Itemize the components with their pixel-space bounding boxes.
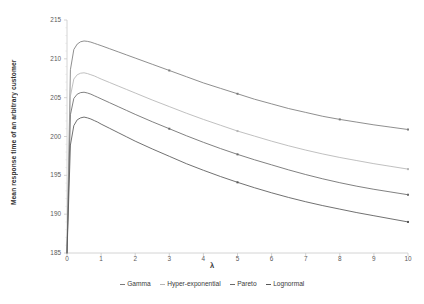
series-marker: [237, 181, 239, 183]
series-line-lognormal: [67, 117, 408, 253]
series-marker: [237, 93, 239, 95]
series-marker: [407, 168, 409, 170]
x-axis-tick-label: 3: [159, 255, 179, 262]
legend-item-lognormal[interactable]: Lognormal: [266, 281, 305, 288]
series-line-pareto: [67, 92, 408, 253]
x-axis-tick-label: 8: [330, 255, 350, 262]
legend-label: Lognormal: [273, 281, 304, 288]
chart-legend: GammaHyper-exponentialParetoLognormal: [0, 281, 424, 288]
series-marker: [407, 129, 409, 131]
series-marker: [168, 69, 170, 71]
x-axis-tick-label: 5: [228, 255, 248, 262]
x-axis-title: λ: [0, 261, 424, 270]
y-axis-tick-label: 215: [35, 16, 61, 23]
legend-item-pareto[interactable]: Pareto: [230, 281, 257, 288]
series-line-hyper-exponential: [67, 73, 408, 253]
legend-swatch-icon: [120, 284, 125, 285]
x-axis-tick-label: 7: [296, 255, 316, 262]
series-marker: [168, 128, 170, 130]
x-axis-tick-label: 6: [262, 255, 282, 262]
y-axis-tick-label: 195: [35, 171, 61, 178]
legend-swatch-icon: [266, 284, 271, 285]
legend-label: Pareto: [237, 281, 256, 288]
x-axis-tick-label: 1: [91, 255, 111, 262]
x-axis-tick-label: 0: [57, 255, 77, 262]
legend-item-hyper-exponential[interactable]: Hyper-exponential: [160, 281, 221, 288]
legend-item-gamma[interactable]: Gamma: [120, 281, 151, 288]
series-line-gamma: [67, 41, 408, 253]
legend-swatch-icon: [160, 284, 165, 285]
y-axis-tick-label: 210: [35, 55, 61, 62]
series-marker: [407, 221, 409, 223]
series-marker: [407, 194, 409, 196]
y-axis-tick-label: 205: [35, 94, 61, 101]
legend-swatch-icon: [230, 284, 235, 285]
x-axis-tick-label: 10: [398, 255, 418, 262]
series-marker: [237, 130, 239, 132]
legend-label: Hyper-exponential: [167, 281, 221, 288]
chart-container: Mean response time of an arbitrary custo…: [0, 0, 424, 304]
x-axis-tick-label: 4: [193, 255, 213, 262]
legend-label: Gamma: [127, 281, 150, 288]
series-marker: [339, 118, 341, 120]
x-axis-tick-label: 2: [125, 255, 145, 262]
y-axis-tick-label: 190: [35, 210, 61, 217]
x-axis-tick-label: 9: [364, 255, 384, 262]
y-axis-tick-label: 200: [35, 133, 61, 140]
series-marker: [237, 153, 239, 155]
